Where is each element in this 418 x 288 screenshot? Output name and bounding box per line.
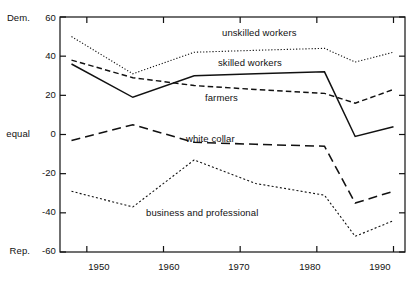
series-line-skilled-workers xyxy=(72,64,394,136)
series-line-unskilled-workers xyxy=(72,37,394,74)
series-line-farmers xyxy=(72,60,394,103)
series-line-business-and-professional xyxy=(72,160,394,236)
series-line-white-collar xyxy=(72,125,394,203)
plot-area xyxy=(0,0,418,288)
chart-container: Dem. 60 40 20 equal 0 -20 -40 Rep. -60 1… xyxy=(0,0,418,288)
